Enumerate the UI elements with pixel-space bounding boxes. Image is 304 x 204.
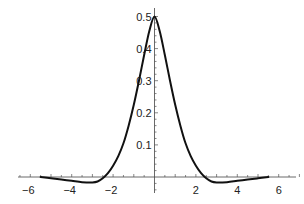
tick-marks (20, 17, 299, 190)
x-tick-label: −2 (105, 184, 118, 196)
x-tick-label: −6 (22, 184, 35, 196)
line-chart: −6−4−2246 0.10.20.30.40.5 (0, 0, 304, 204)
axes (18, 8, 296, 193)
y-tick-label: 0.1 (136, 139, 151, 151)
x-tick-labels: −6−4−2246 (22, 184, 282, 196)
y-tick-label: 0.2 (136, 107, 151, 119)
x-tick-label: −4 (63, 184, 76, 196)
x-tick-label: 2 (193, 184, 199, 196)
y-tick-label: 0.5 (136, 11, 151, 23)
x-tick-label: 6 (276, 184, 282, 196)
x-tick-label: 4 (234, 184, 240, 196)
